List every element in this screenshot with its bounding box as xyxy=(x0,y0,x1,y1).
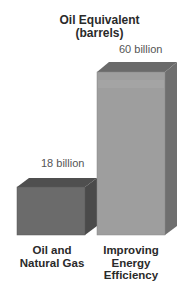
category-line: Efficiency xyxy=(96,269,166,282)
category-line: Natural Gas xyxy=(14,257,90,270)
category-label-energy-efficiency: Improving Energy Efficiency xyxy=(96,244,166,282)
value-label-oil-gas: 18 billion xyxy=(41,157,84,169)
category-line: Improving xyxy=(96,244,166,257)
bar-oil-natural-gas xyxy=(17,178,97,235)
category-line: Energy xyxy=(96,257,166,270)
category-label-oil-gas: Oil and Natural Gas xyxy=(14,244,90,269)
category-line: Oil and xyxy=(14,244,90,257)
bar-energy-efficiency xyxy=(97,62,177,235)
value-label-energy-efficiency: 60 billion xyxy=(119,43,162,55)
